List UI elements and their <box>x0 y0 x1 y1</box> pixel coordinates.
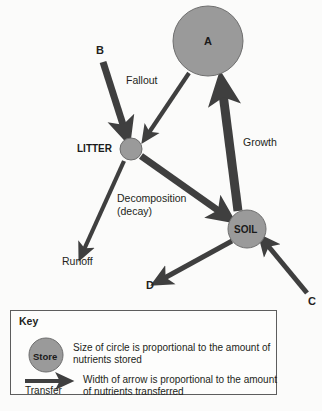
arrow-c-to-soil <box>264 241 307 293</box>
flow-label-decomposition: Decomposition <box>117 193 186 205</box>
store-circle-litter <box>120 138 142 160</box>
key-store-description: Size of circle is proportional to the am… <box>73 342 283 366</box>
arrow-soil-to-a-growth <box>222 86 238 211</box>
node-label-a: A <box>204 35 212 47</box>
flow-label-c: C <box>308 295 316 307</box>
node-label-soil: SOIL <box>234 224 257 235</box>
arrow-litter-to-soil-decomposition <box>141 156 226 216</box>
flow-label-growth: Growth <box>243 137 277 149</box>
diagram-page: A LITTER SOIL B C D Fallout Growth Decom… <box>0 0 322 411</box>
arrow-b-to-litter <box>103 62 126 134</box>
flow-label-b: B <box>96 44 104 56</box>
node-label-litter: LITTER <box>77 143 112 154</box>
arrow-soil-to-d <box>159 241 232 281</box>
flow-label-runoff: Runoff <box>62 256 93 268</box>
flow-label-d: D <box>146 279 154 291</box>
key-store-label: Store <box>33 351 57 362</box>
key-transfer-label: Transfer <box>25 385 62 396</box>
flow-label-decay: (decay) <box>117 206 152 218</box>
key-legend-box: Key Store Size of circle is proportional… <box>10 310 277 395</box>
key-transfer-description: Width of arrow is proportional to the am… <box>83 374 283 398</box>
flow-label-fallout: Fallout <box>126 75 158 87</box>
